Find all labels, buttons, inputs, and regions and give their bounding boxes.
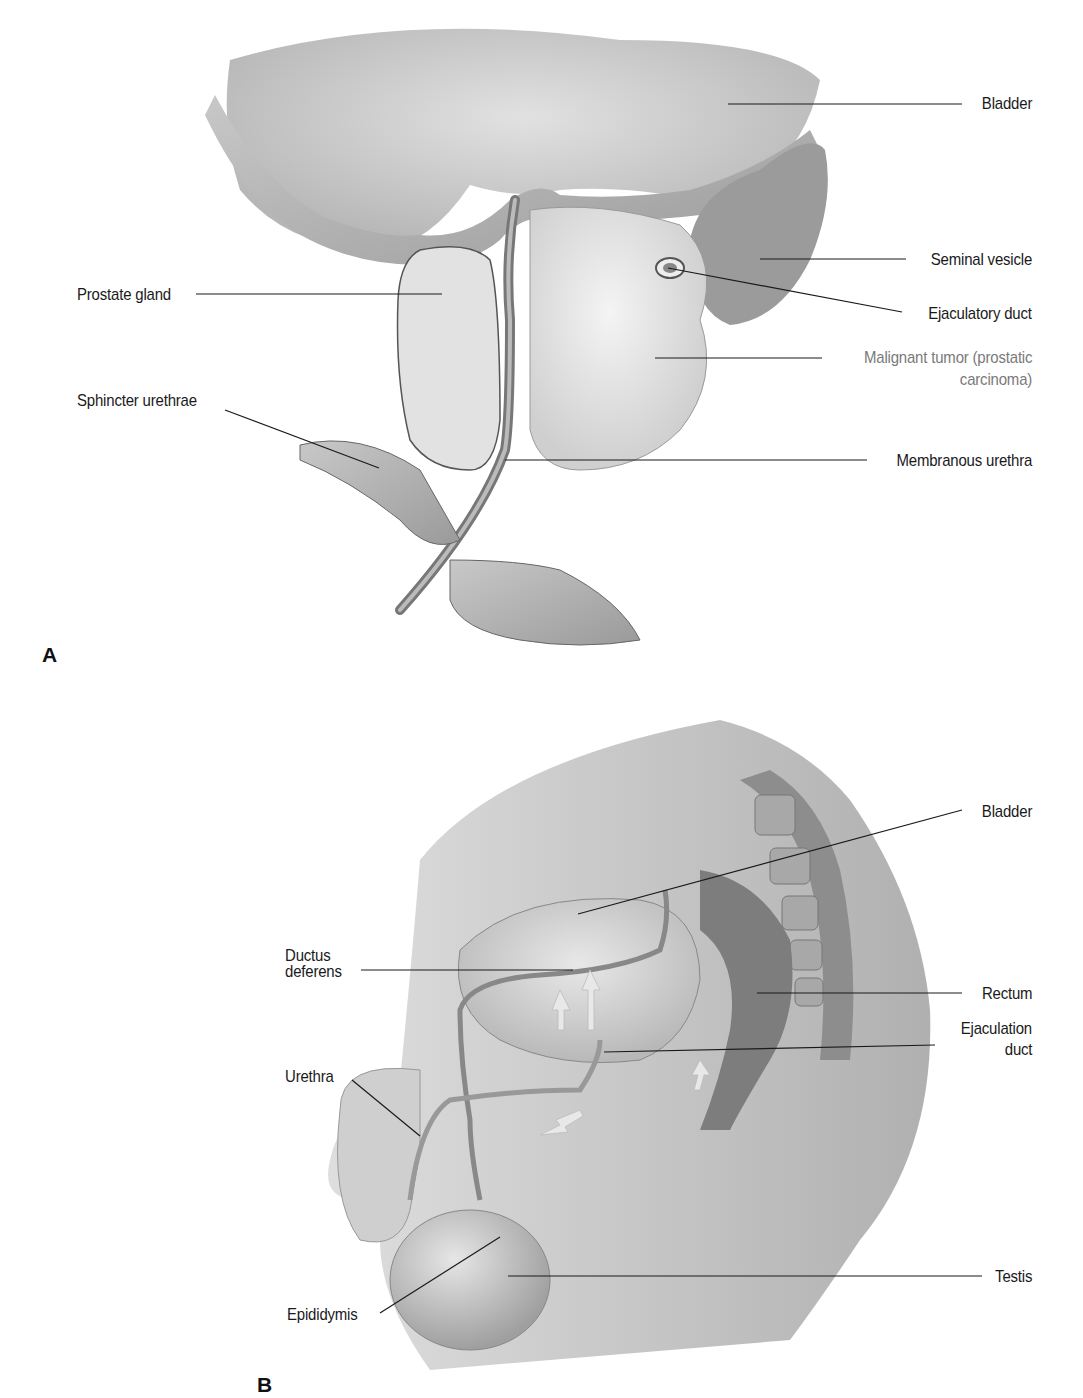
label-ejaculatory-duct: Ejaculatory duct	[928, 303, 1032, 324]
label-urethra: Urethra	[285, 1066, 334, 1087]
label-membranous-urethra: Membranous urethra	[896, 450, 1032, 471]
label-malignant-tumor: Malignant tumor (prostatic	[864, 347, 1032, 368]
pelvis-illustration	[0, 680, 1083, 1398]
tumor-shape	[530, 207, 707, 470]
panel-letter-b: B	[257, 1373, 272, 1397]
prostate-gland-shape	[398, 247, 501, 470]
label-seminal-vesicle: Seminal vesicle	[931, 249, 1032, 270]
label-deferens: deferens	[285, 961, 342, 982]
label-bladder-b: Bladder	[982, 801, 1032, 822]
penis-shape	[338, 1068, 421, 1242]
prostate-illustration	[0, 0, 1083, 680]
panel-b-sagittal-view: Bladder Ductus deferens Rectum Ejaculati…	[0, 680, 1083, 1398]
label-malignant-tumor-line2: carcinoma)	[960, 369, 1032, 390]
label-sphincter-urethrae: Sphincter urethrae	[77, 390, 197, 411]
testis-shape	[390, 1210, 550, 1350]
label-testis: Testis	[995, 1266, 1032, 1287]
label-ejaculation: Ejaculation	[961, 1018, 1032, 1039]
label-ejaculation-duct-line2: duct	[1004, 1039, 1032, 1060]
label-epididymis: Epididymis	[287, 1304, 358, 1325]
label-prostate-gland: Prostate gland	[77, 284, 171, 305]
label-rectum: Rectum	[982, 983, 1032, 1004]
panel-a-prostate-closeup: Bladder Seminal vesicle Prostate gland E…	[0, 0, 1083, 680]
panel-letter-a: A	[42, 643, 57, 667]
label-bladder-a: Bladder	[982, 93, 1032, 114]
